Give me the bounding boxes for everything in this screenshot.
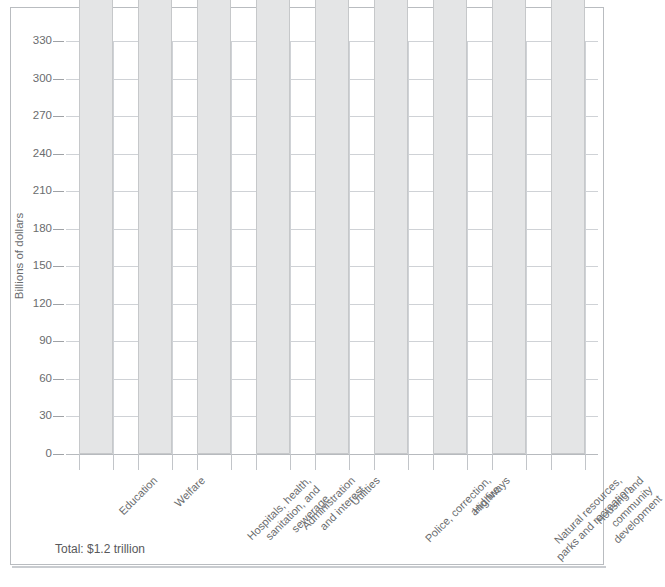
y-axis-tick-group: 3303002702402101801501209060300	[18, 41, 52, 454]
x-axis-tick-mark	[290, 454, 291, 470]
gridline-vertical	[231, 41, 232, 454]
x-axis-tick-mark	[231, 454, 232, 470]
y-axis-tick-mark	[53, 341, 64, 342]
y-axis-tick-label: 210	[22, 185, 52, 197]
bar[interactable]	[433, 0, 467, 454]
y-axis-tick-label: 330	[22, 35, 52, 47]
y-axis-tick-mark	[53, 266, 64, 267]
y-axis-tick-mark	[53, 154, 64, 155]
x-axis-tick-mark	[374, 454, 375, 470]
x-axis-tick-mark	[138, 454, 139, 470]
y-axis-tick-label: 60	[22, 373, 52, 385]
x-axis-category-label: Welfare	[172, 474, 208, 510]
x-axis-tick-mark	[467, 454, 468, 470]
bar[interactable]	[315, 0, 349, 454]
y-axis-tick-mark	[53, 79, 64, 80]
x-axis-tick-mark	[585, 454, 586, 470]
bar[interactable]	[138, 0, 172, 454]
bar[interactable]	[79, 0, 113, 454]
y-axis-tick-mark	[53, 379, 64, 380]
bar[interactable]	[374, 0, 408, 454]
gridline-vertical	[585, 41, 586, 454]
bar[interactable]	[256, 0, 290, 454]
x-axis-tick-mark	[433, 454, 434, 470]
bar[interactable]	[551, 0, 585, 454]
gridline-vertical	[408, 41, 409, 454]
x-axis-tick-mark	[349, 454, 350, 470]
bar[interactable]	[492, 0, 526, 454]
x-axis-category-label: Education	[116, 474, 160, 518]
y-axis-tick-label: 300	[22, 73, 52, 85]
gridline-horizontal	[66, 454, 598, 455]
x-axis-tick-mark	[79, 454, 80, 470]
gridline-vertical	[113, 41, 114, 454]
y-axis-tick-mark	[53, 416, 64, 417]
y-axis-tick-label: 30	[22, 410, 52, 422]
gridline-vertical	[467, 41, 468, 454]
y-axis-tick-label: 270	[22, 110, 52, 122]
y-axis-tick-mark	[53, 191, 64, 192]
y-axis-tick-mark	[53, 454, 64, 455]
bar[interactable]	[197, 0, 231, 454]
y-axis-tick-label: 120	[22, 298, 52, 310]
x-axis-tick-mark	[492, 454, 493, 470]
gridline-vertical	[290, 41, 291, 454]
x-axis-tick-mark	[315, 454, 316, 470]
plot-area	[66, 41, 598, 454]
x-axis-tick-mark	[551, 454, 552, 470]
x-axis-tick-mark	[408, 454, 409, 470]
y-axis-tick-mark	[53, 41, 64, 42]
x-axis-tick-mark	[526, 454, 527, 470]
y-axis-tick-label: 180	[22, 223, 52, 235]
y-axis-tick-mark	[53, 116, 64, 117]
y-axis-tick-label: 240	[22, 148, 52, 160]
gridline-vertical	[172, 41, 173, 454]
x-axis-tick-mark	[113, 454, 114, 470]
gridline-vertical	[526, 41, 527, 454]
gridline-vertical	[349, 41, 350, 454]
total-caption: Total: $1.2 trillion	[55, 542, 145, 556]
x-axis-tick-mark	[172, 454, 173, 470]
y-axis-tick-label: 0	[22, 448, 52, 460]
y-axis-tick-label: 150	[22, 260, 52, 272]
y-axis-tick-mark	[53, 229, 64, 230]
y-axis-tick-label: 90	[22, 335, 52, 347]
x-axis-tick-mark	[197, 454, 198, 470]
x-axis-tick-mark	[256, 454, 257, 470]
y-axis-tick-mark	[53, 304, 64, 305]
